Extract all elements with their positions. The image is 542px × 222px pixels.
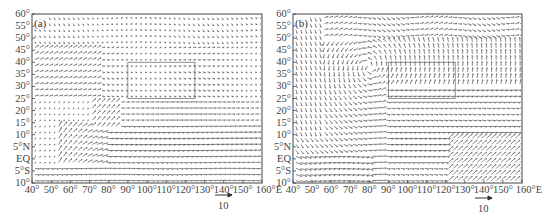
x-tick-label: 130°: [455, 185, 475, 195]
x-tick-label: 100°: [398, 185, 418, 195]
x-tick-label: 150°: [493, 185, 513, 195]
y-tick-label: 30°: [263, 81, 291, 91]
x-tick-label: 60°: [324, 185, 339, 195]
x-tick-label: 70°: [343, 185, 358, 195]
x-tick-label: 120°: [436, 185, 456, 195]
y-tick-label: 40°: [263, 57, 291, 67]
y-tick-label: 5°N: [263, 142, 291, 152]
x-tick-label: 80°: [362, 185, 377, 195]
y-tick-label: 15°: [263, 118, 291, 128]
y-tick-label: 5°S: [263, 166, 291, 176]
y-tick-label: 50°: [263, 33, 291, 43]
x-tick-label: 110°: [417, 185, 437, 195]
panel-label: (b): [295, 17, 308, 29]
x-tick-label: 90°: [381, 185, 396, 195]
y-tick-label: 60°: [263, 9, 291, 19]
x-tick-label: 160°E: [516, 185, 542, 195]
wind-vectors: [296, 16, 527, 183]
y-tick-label: 25°: [263, 94, 291, 104]
reference-arrow-icon: [475, 196, 492, 200]
y-tick-label: 35°: [263, 69, 291, 79]
y-tick-label: 45°: [263, 45, 291, 55]
x-tick-label: 140°: [474, 185, 494, 195]
x-tick-label: 40°: [286, 185, 301, 195]
y-tick-label: 20°: [263, 106, 291, 116]
y-tick-label: 10°: [263, 130, 291, 140]
reference-vector-label: 10: [478, 203, 489, 214]
x-tick-label: 50°: [305, 185, 320, 195]
y-tick-label: 55°: [263, 21, 291, 31]
y-tick-label: EQ: [263, 154, 291, 164]
